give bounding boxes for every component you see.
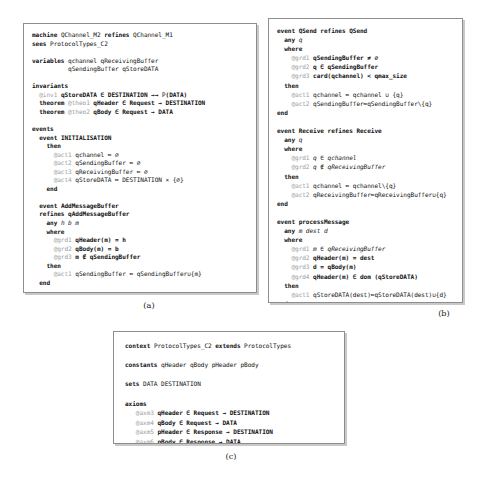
tag-init-act2: @act2 bbox=[54, 159, 72, 166]
keyword-theorem-2: theorem bbox=[39, 108, 64, 115]
guard-qsend-grd2-text: q ∈ qSendingBuffer bbox=[313, 63, 378, 70]
axiom-axm3-text: qHeader ∈ Request → DESTINATION bbox=[157, 409, 269, 416]
action-init-act3-text: qReceivingBuffer ≔ ∅ bbox=[75, 168, 147, 175]
keyword-any-addmsg: any bbox=[46, 219, 57, 226]
keyword-where-receive: where bbox=[284, 145, 302, 152]
keyword-end-init: end bbox=[46, 185, 57, 192]
theorem-theo1-text: qHeader ∈ Request → DESTINATION bbox=[93, 99, 205, 106]
tag-receive-grd1: @grd1 bbox=[291, 154, 309, 161]
action-qsend-act1-text: qchannel ≔ qchannel ∪ {q} bbox=[313, 91, 403, 98]
keyword-where-addmsg: where bbox=[46, 228, 64, 235]
invariant-inv1-text: qStoreDATA ∈ DESTINATION →→ ℙ(DATA) bbox=[61, 91, 187, 98]
keyword-then-init: then bbox=[46, 142, 60, 149]
tag-theo1: @theo1 bbox=[68, 99, 90, 106]
keyword-then-addmsg: then bbox=[46, 262, 60, 269]
keyword-extends: extends bbox=[215, 342, 240, 349]
keyword-event-receive: event bbox=[277, 127, 295, 134]
tag-init-act4: @act4 bbox=[54, 176, 72, 183]
machine-refines-target: QChannel_M1 bbox=[133, 31, 173, 38]
context-name: ProtocolTypes_C2 bbox=[154, 342, 212, 349]
action-receive-act2-text: qReceivingBuffer≔qReceivingBuffer∪{q} bbox=[313, 191, 447, 198]
action-init-act4-text: qStoreDATA ≔ DESTINATION × {∅} bbox=[75, 176, 183, 183]
tag-init-act3: @act3 bbox=[54, 168, 72, 175]
tag-axm4: @axm4 bbox=[136, 419, 154, 426]
keyword-then-processmessage: then bbox=[284, 282, 298, 289]
keyword-refines-qsend: refines bbox=[320, 27, 345, 34]
keyword-end-qsend: end bbox=[277, 109, 288, 116]
figure-container: machine QChannel_M2 refines QChannel_M1 … bbox=[0, 0, 482, 477]
tag-receive-act1: @act1 bbox=[291, 182, 309, 189]
keyword-event-init: event bbox=[39, 134, 57, 141]
constant-pBody: pBody bbox=[241, 361, 259, 368]
variable-qSendingBuffer: qSendingBuffer bbox=[68, 65, 119, 72]
set-DESTINATION: DESTINATION bbox=[161, 380, 201, 387]
event-refines-target-addmsg: qAddMessageBuffer bbox=[68, 210, 129, 217]
keyword-refines: refines bbox=[104, 31, 129, 38]
event-name-receive: Receive bbox=[299, 127, 324, 134]
keyword-refines-receive: refines bbox=[328, 127, 353, 134]
any-vars-qsend: q bbox=[299, 36, 303, 43]
action-init-act1-text: qchannel ≔ ∅ bbox=[75, 151, 118, 158]
tag-init-act1: @act1 bbox=[54, 151, 72, 158]
action-init-act2-text: qSendingBuffer ≔ ∅ bbox=[75, 159, 140, 166]
keyword-any-qsend: any bbox=[284, 36, 295, 43]
variable-qStoreDATA: qStoreDATA bbox=[122, 65, 158, 72]
keyword-sets: sets bbox=[125, 380, 139, 387]
tag-addmsg-act1: @act1 bbox=[54, 270, 72, 277]
keyword-axioms: axioms bbox=[125, 400, 147, 407]
code-listing-a: machine QChannel_M2 refines QChannel_M1 … bbox=[24, 24, 256, 293]
any-vars-addmsg: h b m bbox=[61, 219, 79, 226]
guard-qsend-grd3-text: card(qchannel) < qmax_size bbox=[313, 72, 407, 79]
tag-pm-act1: @act1 bbox=[291, 291, 309, 298]
keyword-event-processmessage: event bbox=[277, 218, 295, 225]
guard-pm-grd4-text: qHeader(m) ∈ dom (qStoreDATA) bbox=[313, 273, 418, 280]
event-refines-target-receive: Receive bbox=[356, 127, 381, 134]
keyword-any-receive: any bbox=[284, 136, 295, 143]
tag-receive-grd2: @grd2 bbox=[291, 163, 309, 170]
context-extends-target: ProtocolTypes bbox=[244, 342, 291, 349]
tag-qsend-act1: @act1 bbox=[291, 91, 309, 98]
code-panel-c: context ProtocolTypes_C2 extends Protoco… bbox=[113, 331, 345, 444]
event-refines-target-qsend: QSend bbox=[349, 27, 367, 34]
tag-qsend-act2: @act2 bbox=[291, 100, 309, 107]
keyword-end-receive: end bbox=[277, 200, 288, 207]
constant-qBody: qBody bbox=[190, 361, 208, 368]
keyword-where-qsend: where bbox=[284, 45, 302, 52]
tag-pm-grd3: @grd3 bbox=[291, 263, 309, 270]
code-panel-b: event QSend refines QSend any q where @g… bbox=[268, 18, 463, 303]
code-listing-c: context ProtocolTypes_C2 extends Protoco… bbox=[114, 332, 344, 444]
tag-receive-act2: @act2 bbox=[291, 191, 309, 198]
tag-qsend-grd1: @grd1 bbox=[291, 54, 309, 61]
keyword-events: events bbox=[32, 125, 54, 132]
tag-axm6: @axm6 bbox=[136, 438, 154, 444]
guard-addmsg-grd1-text: qHeader(m) = h bbox=[75, 236, 126, 243]
action-pm-act1-text: qStoreDATA(dest)≔qStoreDATA(dest)∪{d} bbox=[313, 291, 447, 298]
axiom-axm4-text: qBody ∈ Request → DATA bbox=[157, 419, 236, 426]
any-vars-receive: q bbox=[299, 136, 303, 143]
keyword-then-receive: then bbox=[284, 173, 298, 180]
tag-pm-grd2: @grd2 bbox=[291, 254, 309, 261]
set-DATA: DATA bbox=[143, 380, 157, 387]
caption-b: (b) bbox=[424, 308, 464, 318]
keyword-any-processmessage: any bbox=[284, 227, 295, 234]
machine-name: QChannel_M2 bbox=[61, 31, 101, 38]
caption-a: (a) bbox=[129, 300, 169, 310]
variable-qchannel: qchannel bbox=[68, 57, 97, 64]
guard-pm-grd2-text: qHeader(m) = dest bbox=[313, 254, 374, 261]
action-addmsg-act1-text: qSendingBuffer ≔ qSendingBuffer∪{m} bbox=[75, 270, 201, 277]
code-listing-b: event QSend refines QSend any q where @g… bbox=[269, 19, 462, 303]
event-name-initialisation: INITIALISATION bbox=[61, 134, 112, 141]
guard-addmsg-grd3-text: m ∉ qSendingBuffer bbox=[75, 253, 140, 260]
keyword-end-addmsg: end bbox=[39, 279, 50, 286]
keyword-event-qsend: event bbox=[277, 27, 295, 34]
keyword-where-processmessage: where bbox=[284, 236, 302, 243]
guard-addmsg-grd2-text: qBody(m) = b bbox=[75, 245, 118, 252]
keyword-event-addmsg: event bbox=[39, 202, 57, 209]
sees-target: ProtocolTypes_C2 bbox=[50, 40, 108, 47]
keyword-constants: constants bbox=[125, 361, 157, 368]
keyword-refines-addmsg: refines bbox=[39, 210, 64, 217]
keyword-sees: sees bbox=[32, 40, 46, 47]
tag-qsend-grd3: @grd3 bbox=[291, 72, 309, 79]
keyword-invariants: invariants bbox=[32, 82, 68, 89]
tag-axm5: @axm5 bbox=[136, 428, 154, 435]
